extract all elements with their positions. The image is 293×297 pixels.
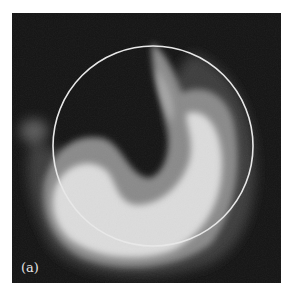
panel-label: (a) [21, 260, 39, 275]
image-panel: (a) [12, 13, 281, 283]
intensity-image [12, 13, 281, 283]
